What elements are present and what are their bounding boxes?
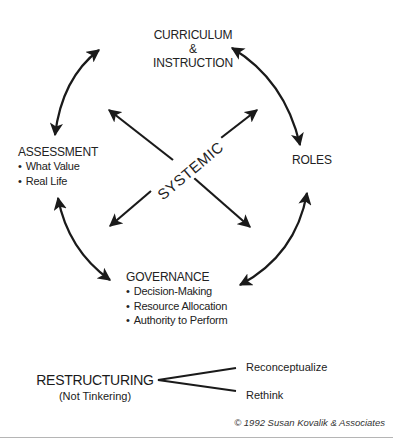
bottom-divider — [0, 437, 393, 438]
arc-roles-governance — [240, 193, 307, 285]
governance-title: GOVERNANCE — [126, 270, 227, 284]
governance-bullet: Authority to Perform — [126, 313, 227, 328]
governance-bullet: Decision-Making — [126, 284, 227, 299]
restructuring-branch — [158, 368, 236, 391]
node-assessment: ASSESSMENT What Value Real Life — [18, 145, 98, 188]
governance-bullet: Resource Allocation — [126, 299, 227, 314]
systemic-arrow-nw — [109, 110, 173, 160]
branch-reconceptualize: Reconceptualize — [246, 361, 327, 373]
assessment-title: ASSESSMENT — [18, 145, 98, 159]
restructuring-title: RESTRUCTURING — [30, 372, 160, 389]
restructuring-subtitle: (Not Tinkering) — [30, 389, 160, 404]
branch-rethink: Rethink — [246, 389, 283, 401]
roles-title: ROLES — [292, 153, 332, 167]
restructuring-block: RESTRUCTURING (Not Tinkering) — [30, 372, 160, 404]
node-governance: GOVERNANCE Decision-Making Resource Allo… — [126, 270, 227, 328]
node-curriculum-instruction: CURRICULUM & INSTRUCTION — [128, 28, 258, 70]
ampersand-label: & — [128, 42, 258, 56]
systemic-arrow-ne — [217, 110, 257, 141]
arc-curriculum-assessment — [55, 50, 99, 135]
systemic-arrow-se — [194, 178, 250, 227]
instruction-label: INSTRUCTION — [128, 56, 258, 70]
systemic-arrow-sw — [110, 191, 151, 226]
copyright-notice: © 1992 Susan Kovalik & Associates — [234, 417, 385, 428]
assessment-bullet: What Value — [18, 159, 98, 174]
curriculum-label: CURRICULUM — [128, 28, 258, 42]
assessment-bullet: Real Life — [18, 174, 98, 189]
node-roles: ROLES — [292, 153, 332, 167]
arc-assessment-governance — [58, 198, 110, 280]
